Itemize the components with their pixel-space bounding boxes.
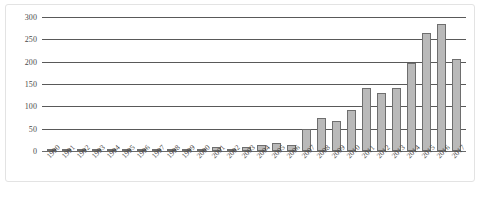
x-label-slot: 2004 [254, 153, 269, 183]
x-label-slot: 1999 [179, 153, 194, 183]
bars-group [42, 17, 466, 151]
bar-slot [224, 17, 239, 151]
x-label-slot: 2001 [209, 153, 224, 183]
x-label-slot: 2008 [314, 153, 329, 183]
bar-slot [419, 17, 434, 151]
bar-2016[interactable] [437, 24, 446, 151]
x-label-slot: 1998 [164, 153, 179, 183]
bar-2017[interactable] [452, 59, 461, 151]
x-label-slot: 1996 [134, 153, 149, 183]
x-label-slot: 2012 [374, 153, 389, 183]
x-label-slot: 1990 [44, 153, 59, 183]
x-label-slot: 2002 [224, 153, 239, 183]
bar-slot [299, 17, 314, 151]
bar-slot [179, 17, 194, 151]
x-label-slot: 1995 [119, 153, 134, 183]
x-label-slot: 2009 [329, 153, 344, 183]
x-label-slot: 2003 [239, 153, 254, 183]
bar-slot [374, 17, 389, 151]
x-label-slot: 2010 [344, 153, 359, 183]
bar-2011[interactable] [362, 88, 371, 151]
bar-slot [284, 17, 299, 151]
bar-slot [344, 17, 359, 151]
bar-slot [209, 17, 224, 151]
bar-slot [74, 17, 89, 151]
bar-slot [314, 17, 329, 151]
figure-caption [8, 188, 474, 198]
bar-slot [269, 17, 284, 151]
plot-area: 050100150200250300 [42, 17, 466, 151]
chart-card: 050100150200250300 199019911992199319941… [5, 4, 475, 182]
x-label-slot: 2013 [389, 153, 404, 183]
bar-slot [329, 17, 344, 151]
bar-2014[interactable] [407, 63, 416, 151]
y-axis-tick-label: 300 [25, 13, 37, 22]
bar-slot [449, 17, 464, 151]
bar-slot [104, 17, 119, 151]
bar-slot [194, 17, 209, 151]
x-label-slot: 2005 [269, 153, 284, 183]
bar-slot [164, 17, 179, 151]
x-label-slot: 2007 [299, 153, 314, 183]
y-axis-tick-label: 150 [25, 80, 37, 89]
x-label-slot: 2015 [419, 153, 434, 183]
x-label-slot: 1994 [104, 153, 119, 183]
x-label-slot: 1991 [59, 153, 74, 183]
x-label-slot: 2017 [449, 153, 464, 183]
x-label-slot: 1993 [89, 153, 104, 183]
bar-slot [59, 17, 74, 151]
x-label-slot: 2006 [284, 153, 299, 183]
bar-slot [359, 17, 374, 151]
x-axis-labels: 1990199119921993199419951996199719981999… [42, 153, 466, 183]
bar-slot [149, 17, 164, 151]
x-label-slot: 2014 [404, 153, 419, 183]
bar-2015[interactable] [422, 33, 431, 151]
bar-slot [44, 17, 59, 151]
bar-slot [389, 17, 404, 151]
bar-slot [404, 17, 419, 151]
y-axis-tick-label: 50 [29, 124, 37, 133]
bar-slot [89, 17, 104, 151]
y-axis-tick-label: 100 [25, 102, 37, 111]
x-label-slot: 1997 [149, 153, 164, 183]
x-label-slot: 2011 [359, 153, 374, 183]
bar-slot [239, 17, 254, 151]
bar-slot [134, 17, 149, 151]
x-label-slot: 1992 [74, 153, 89, 183]
y-axis-tick-label: 200 [25, 57, 37, 66]
bar-slot [254, 17, 269, 151]
bar-slot [119, 17, 134, 151]
y-axis-tick-label: 0 [33, 147, 37, 156]
bar-slot [434, 17, 449, 151]
x-label-slot: 2000 [194, 153, 209, 183]
figure-container: 050100150200250300 199019911992199319941… [0, 0, 482, 198]
x-label-slot: 2016 [434, 153, 449, 183]
y-axis-tick-label: 250 [25, 35, 37, 44]
